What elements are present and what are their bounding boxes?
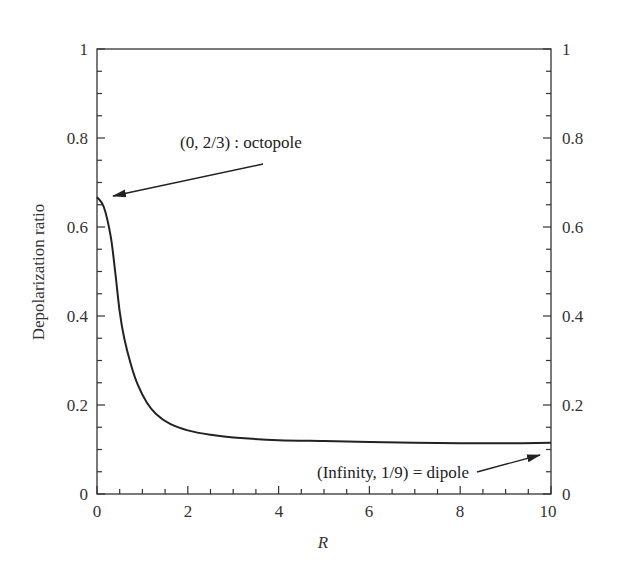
arrow-icon [477, 455, 540, 472]
annotation-dipole: (Infinity, 1/9) = dipole [317, 455, 540, 482]
x-tick-label: 6 [365, 502, 374, 521]
annotation-dipole-text: (Infinity, 1/9) = dipole [317, 463, 469, 482]
y-tick-label: 0 [80, 485, 89, 504]
annotation-octopole: (0, 2/3) : octopole [113, 133, 302, 196]
x-tick-label: 8 [456, 502, 465, 521]
arrow-icon [113, 164, 263, 196]
y-tick-label-right: 0.2 [562, 396, 583, 415]
y-tick-label-right: 0.4 [562, 307, 584, 326]
x-tick-label: 10 [540, 502, 557, 521]
x-tick-label: 2 [184, 502, 193, 521]
y-tick-label: 0.6 [67, 218, 88, 237]
x-tick-label: 0 [93, 502, 102, 521]
x-axis-title: R [317, 533, 329, 552]
y-axis-left-labels: 0 0.2 0.4 0.6 0.8 1 [67, 40, 89, 504]
y-tick-label: 0.2 [67, 396, 88, 415]
y-tick-label: 0.4 [67, 307, 89, 326]
y-tick-label-right: 0.8 [562, 129, 583, 148]
y-tick-label: 1 [80, 40, 89, 59]
y-tick-label: 0.8 [67, 129, 88, 148]
y-tick-label-right: 0 [562, 485, 571, 504]
x-tick-label: 4 [275, 502, 284, 521]
y-tick-label-right: 1 [562, 40, 571, 59]
depolarization-chart: 0 0.2 0.4 0.6 0.8 1 0 0.2 0.4 0.6 0.8 1 … [0, 0, 619, 587]
y-axis-right-labels: 0 0.2 0.4 0.6 0.8 1 [562, 40, 584, 504]
axis-ticks [97, 49, 551, 494]
annotation-octopole-text: (0, 2/3) : octopole [180, 133, 302, 152]
y-axis-title: Depolarization ratio [29, 204, 48, 340]
plot-frame [97, 49, 551, 494]
y-tick-label-right: 0.6 [562, 218, 583, 237]
data-line [97, 197, 551, 443]
x-axis-labels: 0 2 4 6 8 10 [93, 502, 557, 521]
